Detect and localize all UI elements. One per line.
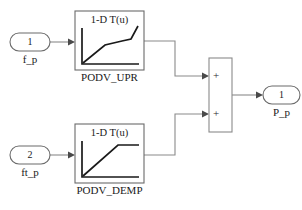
arrow-head-icon	[202, 111, 209, 118]
sum-sign-top: +	[213, 69, 219, 81]
signal-podv-upr-to-sum[interactable]	[144, 41, 202, 76]
inport-1-number: 1	[28, 36, 33, 47]
podv-upr-title: 1-D T(u)	[91, 14, 129, 26]
outport-1[interactable]: 1 P_p	[263, 86, 300, 118]
block-diagram-canvas: 1 f_p 2 ft_p 1-D T(u) PODV_UPR 1-D T(u)	[0, 0, 302, 210]
inport-1[interactable]: 1 f_p	[10, 33, 50, 65]
arrow-head-icon	[68, 152, 75, 159]
lookup-block-podv-upr[interactable]: 1-D T(u) PODV_UPR	[75, 11, 144, 83]
diagram-svg: 1 f_p 2 ft_p 1-D T(u) PODV_UPR 1-D T(u)	[0, 0, 302, 210]
arrow-head-icon	[256, 92, 263, 99]
inport-2[interactable]: 2 ft_p	[10, 146, 50, 178]
inport-1-label: f_p	[23, 53, 38, 65]
sum-sign-bottom: +	[213, 107, 219, 119]
arrow-head-icon	[68, 39, 75, 46]
signal-podv-demp-to-sum[interactable]	[144, 114, 202, 155]
outport-1-number: 1	[279, 89, 284, 100]
inport-2-label: ft_p	[21, 166, 39, 178]
podv-demp-title: 1-D T(u)	[91, 127, 129, 139]
outport-1-label: P_p	[273, 106, 291, 118]
podv-demp-caption: PODV_DEMP	[76, 184, 142, 196]
podv-upr-caption: PODV_UPR	[81, 71, 139, 83]
sum-block[interactable]: + +	[209, 58, 232, 132]
lookup-block-podv-demp[interactable]: 1-D T(u) PODV_DEMP	[75, 124, 144, 196]
arrow-head-icon	[202, 73, 209, 80]
inport-2-number: 2	[28, 149, 33, 160]
